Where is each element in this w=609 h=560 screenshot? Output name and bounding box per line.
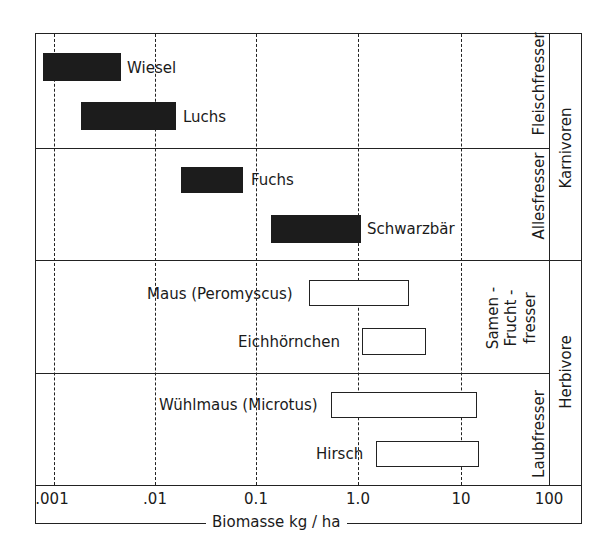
group-herbivore: Herbivore [558,335,574,408]
bar-schwarzbaer [271,215,361,243]
label-eichhoernchen: Eichhörnchen [238,334,340,350]
label-fuchs: Fuchs [251,172,294,188]
subgroup-samen-line3: fresser [522,292,538,343]
tick-0.001: .001 [35,491,68,507]
gridline-0.1 [256,34,257,485]
group-column-divider [549,33,550,485]
subgroup-samen-line1: Samen - [485,287,501,349]
divider-karnivoren-herbivore [35,260,582,261]
x-axis-line [35,485,582,486]
divider-fleisch-alles [35,148,549,149]
label-maus: Maus (Peromyscus) [147,286,293,302]
bar-maus [309,280,409,306]
subgroup-samen-line2: Frucht - [503,289,519,346]
bar-wuehlmaus [331,392,477,418]
label-wuehlmaus: Wühlmaus (Microtus) [159,397,318,413]
bar-eichhoernchen [362,328,426,355]
tick-0.1: 0.1 [244,491,268,507]
divider-samen-laub [35,373,549,374]
subgroup-allesfresser: Allesfresser [531,152,547,239]
label-wiesel: Wiesel [127,60,176,76]
subgroup-laubfresser: Laubfresser [531,390,547,478]
bar-hirsch [376,441,479,467]
label-schwarzbaer: Schwarzbär [367,221,455,237]
subgroup-fleischfresser: Fleischfresser [531,32,547,135]
tick-10: 10 [451,491,470,507]
bar-wiesel [43,53,121,81]
group-karnivoren: Karnivoren [558,108,574,189]
tick-1: 1.0 [346,491,370,507]
x-axis-title: Biomasse kg / ha [206,513,347,531]
bar-fuchs [181,167,243,193]
label-luchs: Luchs [183,109,226,125]
tick-100: 100 [535,491,564,507]
tick-0.01: .01 [143,491,167,507]
bar-luchs [81,102,176,130]
label-hirsch: Hirsch [316,446,363,462]
gridline-0.001 [54,34,55,485]
